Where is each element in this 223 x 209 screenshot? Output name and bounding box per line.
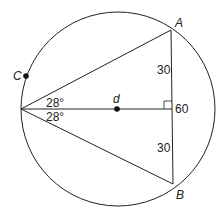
circle-diagram: A B C d 28° 28° 30 30 60	[0, 0, 223, 209]
segment-left-to-A	[21, 30, 171, 109]
label-center: d	[113, 92, 120, 106]
label-B: B	[176, 188, 184, 202]
angle-upper: 28°	[46, 96, 64, 110]
chord-AB	[171, 30, 173, 184]
label-A: A	[174, 16, 183, 30]
length-upper: 30	[157, 63, 171, 77]
angle-lower: 28°	[46, 110, 64, 124]
label-C: C	[13, 69, 22, 83]
center-point	[114, 106, 120, 112]
segment-left-to-B	[21, 109, 173, 184]
length-chord: 60	[175, 102, 189, 116]
right-angle-marker	[164, 101, 172, 109]
length-lower: 30	[157, 141, 171, 155]
point-C	[23, 73, 29, 79]
